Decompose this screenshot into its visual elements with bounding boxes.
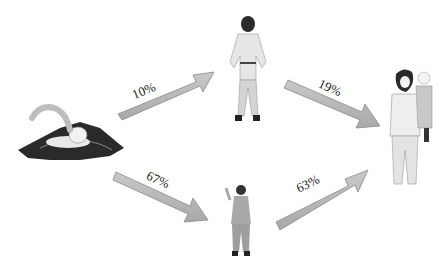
arrow-child-to-mother [276,170,368,230]
swimmer-illustration [18,107,124,160]
child-illustration [226,185,251,256]
man-illustration [230,16,266,121]
diagram-canvas [0,0,448,273]
mother-with-child-illustration [390,69,432,184]
